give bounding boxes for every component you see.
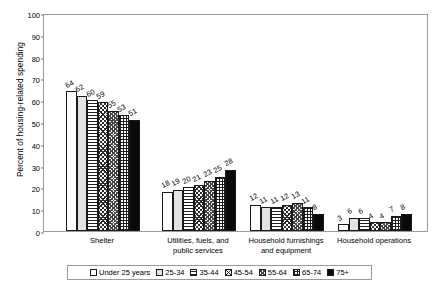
y-axis-tick-mark: [41, 124, 44, 125]
bar-value-label: 25: [212, 163, 223, 175]
bar: [225, 170, 236, 231]
bar: [215, 177, 226, 232]
bar: [77, 96, 88, 231]
legend-item[interactable]: 35-44: [190, 268, 218, 277]
bar: [380, 222, 391, 231]
y-axis-tick-mark: [41, 36, 44, 37]
bar: [401, 214, 412, 231]
y-axis-tick-mark: [41, 15, 44, 16]
y-axis-tick-mark: [41, 189, 44, 190]
bar: [119, 115, 130, 231]
legend-label: 25-34: [165, 268, 184, 277]
x-axis-category-label-line: Shelter: [51, 236, 153, 246]
legend-label: 75+: [336, 268, 349, 277]
x-axis-category-label-line: public services: [147, 246, 249, 256]
bar-group: 64626059555351: [66, 15, 140, 231]
plot-area: 0102030405060708090100646260595553511819…: [43, 14, 428, 232]
legend-label: 35-44: [199, 268, 218, 277]
x-axis-category-label: Household furnishingsand equipment: [235, 236, 337, 255]
legend-label: 45-54: [234, 268, 253, 277]
plot-inner: 0102030405060708090100646260595553511819…: [44, 15, 427, 231]
x-axis-category-label-line: Household operations: [323, 236, 425, 246]
legend-label: Under 25 years: [99, 268, 150, 277]
bar-group: 18192021232528: [162, 15, 236, 231]
bar: [261, 207, 272, 231]
legend-swatch-icon: [293, 269, 300, 276]
bar-value-label: 8: [399, 202, 407, 212]
bar-group: 1211111213118: [250, 15, 324, 231]
legend-label: 55-64: [268, 268, 287, 277]
bar-value-label: 11: [268, 194, 279, 206]
bar-value-label: 6: [346, 207, 354, 217]
bar: [250, 205, 261, 231]
y-axis-tick-mark: [41, 167, 44, 168]
legend-swatch-icon: [190, 269, 197, 276]
bar-value-label: 4: [378, 211, 386, 221]
y-axis-title: Percent of housing-related spending: [16, 10, 25, 210]
legend-item[interactable]: 25-34: [156, 268, 184, 277]
y-axis-tick-mark: [41, 102, 44, 103]
legend-swatch-icon: [225, 269, 232, 276]
legend-item[interactable]: Under 25 years: [90, 268, 150, 277]
bar-value-label: 11: [258, 194, 269, 206]
bar: [173, 190, 184, 231]
legend-item[interactable]: 55-64: [259, 268, 287, 277]
legend-label: 65-74: [302, 268, 321, 277]
bar-value-label: 6: [356, 207, 364, 217]
bar-value-label: 19: [170, 176, 181, 188]
bar-value-label: 21: [191, 172, 202, 184]
x-axis-category-label-line: Utilities, fuels, and: [147, 236, 249, 246]
bar-value-label: 13: [290, 189, 301, 201]
bar-value-label: 64: [63, 78, 74, 90]
bar-group: 3664478: [338, 15, 412, 231]
y-axis-tick-mark: [41, 58, 44, 59]
bar: [66, 91, 77, 231]
x-axis-category-label: Household operations: [323, 236, 425, 246]
bar: [194, 185, 205, 231]
legend-swatch-icon: [156, 269, 163, 276]
legend-swatch-icon: [90, 269, 97, 276]
bar-value-label: 7: [388, 204, 396, 214]
legend-item[interactable]: 45-54: [225, 268, 253, 277]
bar: [349, 218, 360, 231]
bar: [303, 207, 314, 231]
x-axis-category-label: Shelter: [51, 236, 153, 246]
y-axis-tick-mark: [41, 80, 44, 81]
legend-item[interactable]: 65-74: [293, 268, 321, 277]
bar: [313, 214, 324, 231]
bar: [359, 218, 370, 231]
bar: [87, 100, 98, 231]
bar: [183, 187, 194, 231]
y-axis-tick-mark: [41, 233, 44, 234]
bar-value-label: 12: [279, 192, 290, 204]
bar-value-label: 59: [95, 89, 106, 101]
bar: [391, 216, 402, 231]
bar-value-label: 3: [335, 213, 343, 223]
bar-chart: Percent of housing-related spending 0102…: [0, 0, 438, 289]
bar: [162, 192, 173, 231]
y-axis-tick-mark: [41, 145, 44, 146]
bar: [338, 224, 349, 231]
legend-item[interactable]: 75+: [327, 268, 349, 277]
x-axis-category-label-line: and equipment: [235, 246, 337, 256]
bar-value-label: 28: [223, 157, 234, 169]
bar: [108, 111, 119, 231]
y-axis-tick-mark: [41, 211, 44, 212]
bar: [282, 205, 293, 231]
bar: [98, 102, 109, 231]
bar: [129, 120, 140, 231]
bar: [271, 207, 282, 231]
chart-legend: Under 25 years25-3435-4445-5455-6465-747…: [67, 265, 372, 280]
bar-value-label: 23: [202, 168, 213, 180]
bar: [370, 222, 381, 231]
x-axis-category-label: Utilities, fuels, andpublic services: [147, 236, 249, 255]
legend-swatch-icon: [327, 269, 334, 276]
bar: [292, 203, 303, 231]
x-axis-category-label-line: Household furnishings: [235, 236, 337, 246]
bar: [204, 181, 215, 231]
legend-swatch-icon: [259, 269, 266, 276]
